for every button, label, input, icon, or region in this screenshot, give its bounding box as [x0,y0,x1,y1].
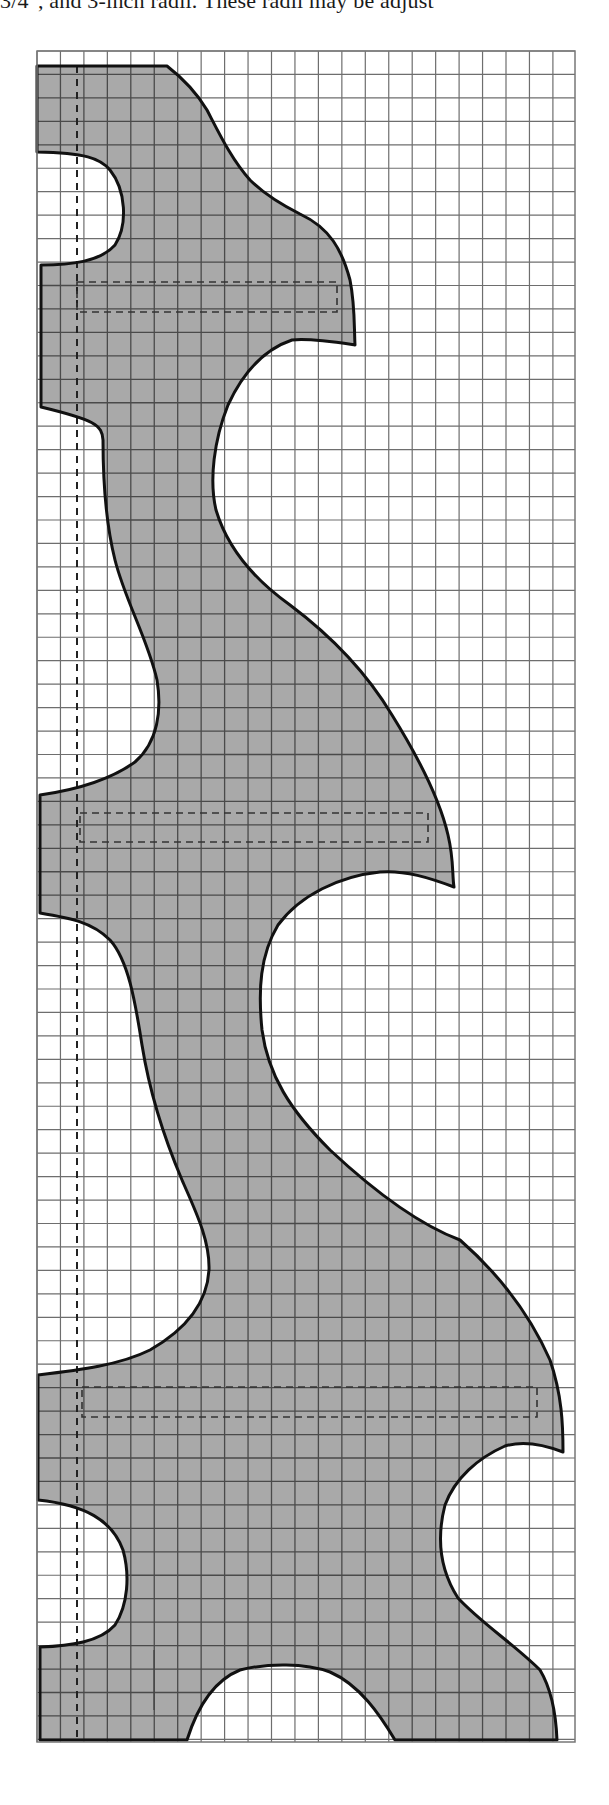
pattern-template-diagram [0,0,609,1805]
